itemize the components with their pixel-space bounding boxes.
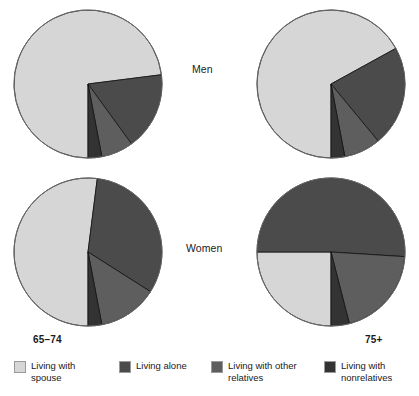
pie-slice	[257, 252, 331, 326]
row-label-women: Women	[186, 242, 223, 254]
legend-item-living-alone: Living alone	[119, 360, 211, 383]
column-label-75-plus: 75+	[365, 334, 383, 345]
chart-legend: Living with spouse Living alone Living w…	[0, 360, 419, 383]
legend-label-living-with-spouse: Living with spouse	[31, 360, 75, 383]
pie-chart-men-65-74	[12, 8, 164, 160]
legend-item-living-with-nonrelatives: Living with nonrelatives	[324, 360, 419, 383]
pie-slice	[14, 178, 97, 326]
legend-label-living-alone: Living alone	[136, 360, 187, 372]
row-label-men: Men	[192, 63, 213, 75]
pie-chart-women-65-74	[12, 176, 164, 328]
legend-swatch-living-with-other-relatives	[211, 361, 223, 373]
legend-item-living-with-other-relatives: Living with other relatives	[211, 360, 324, 383]
legend-item-living-with-spouse: Living with spouse	[14, 360, 119, 383]
legend-swatch-living-with-nonrelatives	[324, 361, 336, 373]
pie-chart-men-75-plus	[255, 8, 407, 160]
pie-slice	[257, 178, 405, 257]
legend-label-living-with-nonrelatives: Living with nonrelatives	[341, 360, 392, 383]
legend-swatch-living-alone	[119, 361, 131, 373]
column-label-65-74: 65–74	[33, 334, 62, 345]
legend-swatch-living-with-spouse	[14, 361, 26, 373]
pie-chart-women-75-plus	[255, 176, 407, 328]
legend-label-living-with-other-relatives: Living with other relatives	[228, 360, 297, 383]
pie-chart-figure: Men Women 65–74 75+ Living with spouse L…	[0, 0, 419, 396]
